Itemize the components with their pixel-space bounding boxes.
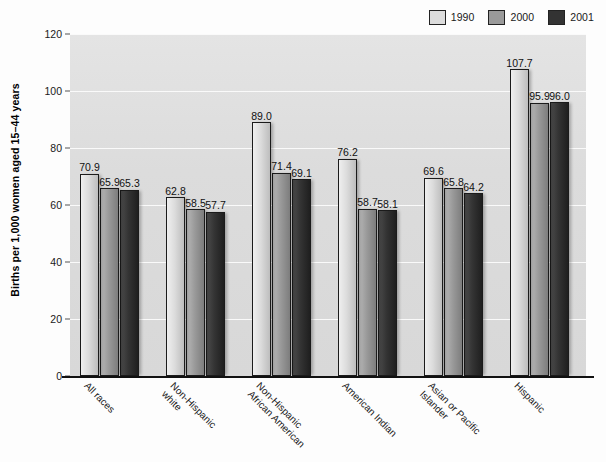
- x-axis-label: Hispanic: [511, 380, 546, 415]
- bar-1990[interactable]: 107.7: [510, 69, 529, 376]
- bar-value-label: 58.1: [377, 199, 397, 210]
- bar-value-label: 57.7: [205, 200, 225, 211]
- bar-value-label: 65.9: [99, 177, 119, 188]
- bars-layer: 70.965.965.362.858.557.789.071.469.176.2…: [70, 34, 586, 376]
- x-axis-label: Asian or Pacific Islander: [417, 380, 482, 445]
- bar-group: 89.071.469.1: [242, 34, 328, 376]
- legend-label-2000: 2000: [510, 12, 534, 23]
- bar-1990[interactable]: 70.9: [80, 174, 99, 376]
- bar-value-label: 58.7: [357, 197, 377, 208]
- bar-value-label: 70.9: [79, 162, 99, 173]
- bar-value-label: 95.9: [529, 91, 549, 102]
- x-axis-label: All races: [81, 380, 116, 415]
- bar-2000[interactable]: 65.8: [444, 188, 463, 376]
- bar-1990[interactable]: 89.0: [252, 122, 271, 376]
- bar-value-label: 69.6: [423, 166, 443, 177]
- y-axis-ticks: 020406080100120: [0, 34, 70, 376]
- legend-item-2001[interactable]: 2001: [548, 10, 594, 25]
- bar-value-label: 89.0: [251, 111, 271, 122]
- bar-value-label: 65.3: [119, 178, 139, 189]
- bar-2001[interactable]: 96.0: [550, 102, 569, 376]
- bar-value-label: 107.7: [506, 58, 532, 69]
- y-tick-label: 120: [44, 29, 62, 40]
- bar-2001[interactable]: 69.1: [292, 179, 311, 376]
- y-tick-label: 80: [50, 143, 62, 154]
- bar-value-label: 64.2: [463, 182, 483, 193]
- bar-1990[interactable]: 76.2: [338, 159, 357, 376]
- legend-swatch-icon-2000: [488, 10, 505, 25]
- bar-group: 62.858.557.7: [156, 34, 242, 376]
- legend-label-2001: 2001: [570, 12, 594, 23]
- legend-swatch-icon-1990: [429, 10, 446, 25]
- x-axis-line: [62, 376, 594, 378]
- bar-group: 70.965.965.3: [70, 34, 156, 376]
- bar-1990[interactable]: 69.6: [424, 178, 443, 376]
- bar-2000[interactable]: 95.9: [530, 103, 549, 376]
- bar-value-label: 65.8: [443, 177, 463, 188]
- bar-value-label: 58.5: [185, 198, 205, 209]
- bar-value-label: 71.4: [271, 161, 291, 172]
- bar-2000[interactable]: 58.5: [186, 209, 205, 376]
- bar-group: 69.665.864.2: [414, 34, 500, 376]
- legend-item-1990[interactable]: 1990: [429, 10, 475, 25]
- bar-group: 76.258.758.1: [328, 34, 414, 376]
- y-tick-label: 100: [44, 86, 62, 97]
- bar-group: 107.795.996.0: [500, 34, 586, 376]
- x-axis-labels: All racesNon-Hispanic whiteNon-Hispanic …: [70, 380, 586, 462]
- legend-label-1990: 1990: [451, 12, 475, 23]
- bar-2001[interactable]: 57.7: [206, 212, 225, 376]
- bar-value-label: 96.0: [549, 91, 569, 102]
- x-axis-label: Non-Hispanic African American: [245, 380, 315, 450]
- y-tick-label: 20: [50, 314, 62, 325]
- bar-value-label: 62.8: [165, 186, 185, 197]
- legend-item-2000[interactable]: 2000: [488, 10, 534, 25]
- bar-2000[interactable]: 65.9: [100, 188, 119, 376]
- bar-value-label: 69.1: [291, 168, 311, 179]
- y-tick-label: 60: [50, 200, 62, 211]
- bar-2001[interactable]: 65.3: [120, 190, 139, 376]
- bar-1990[interactable]: 62.8: [166, 197, 185, 376]
- birth-rate-bar-chart: 1990 2000 2001 Births per 1,000 women ag…: [0, 0, 606, 462]
- legend-swatch-icon-2001: [548, 10, 565, 25]
- bar-2001[interactable]: 58.1: [378, 210, 397, 376]
- bar-2000[interactable]: 58.7: [358, 209, 377, 376]
- y-tick-label: 40: [50, 257, 62, 268]
- x-axis-label: Non-Hispanic white: [159, 380, 218, 439]
- bar-2000[interactable]: 71.4: [272, 173, 291, 376]
- bar-2001[interactable]: 64.2: [464, 193, 483, 376]
- x-axis-label: American Indian: [339, 380, 398, 439]
- chart-legend: 1990 2000 2001: [429, 10, 594, 25]
- bar-value-label: 76.2: [337, 147, 357, 158]
